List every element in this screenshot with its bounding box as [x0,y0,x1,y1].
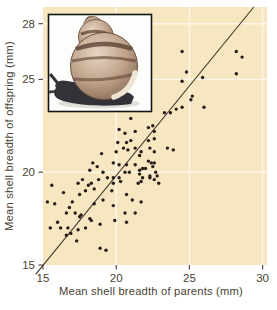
data-point [128,171,131,174]
data-point [201,76,204,79]
data-point [235,50,238,53]
data-point [49,226,52,229]
data-point [180,106,183,109]
data-point [125,163,128,166]
data-point [134,146,137,149]
data-point [74,211,77,214]
data-point [68,206,71,209]
data-point [110,189,113,192]
data-point [139,150,142,153]
data-point [112,182,115,185]
data-point [166,146,169,149]
data-point [113,219,116,222]
data-point [84,226,87,229]
scatter-plot: 1520252815202530 Mean shell breadth of o… [0,0,277,310]
data-point [131,198,134,201]
data-point [148,176,151,179]
data-point [122,146,125,149]
data-point [117,163,120,166]
data-point [56,221,59,224]
data-point [141,176,144,179]
data-point [175,107,178,110]
data-point [148,146,151,149]
data-point [180,50,183,53]
data-point [139,180,142,183]
data-point [172,148,175,151]
data-point [90,219,93,222]
data-point [126,148,129,151]
data-point [106,176,109,179]
data-point [104,249,107,252]
data-point [147,139,150,142]
data-point [169,111,172,114]
data-point [154,171,157,174]
data-point [119,180,122,183]
data-point [156,174,159,177]
data-point [79,213,82,216]
data-point [144,167,147,170]
data-point [46,200,49,203]
data-point [153,137,156,140]
snail-inset-image [49,15,152,112]
data-point [189,98,192,101]
data-point [93,202,96,205]
data-point [134,211,137,214]
data-point [98,247,101,250]
data-point [71,200,74,203]
x-tick-label: 15 [37,272,50,284]
data-point [91,161,94,164]
data-point [163,111,166,114]
data-point [123,132,126,135]
data-point [235,72,238,75]
data-point [66,226,69,229]
data-point [180,80,183,83]
data-point [151,165,154,168]
data-point [153,150,156,153]
data-point [90,182,93,185]
data-point [75,239,78,242]
data-point [129,139,132,142]
data-point [62,191,65,194]
data-point [101,198,104,201]
data-point [112,204,115,207]
data-point [141,167,144,170]
data-point [134,163,137,166]
data-point [76,182,79,185]
data-point [53,202,56,205]
data-point [150,161,153,164]
data-point [117,176,120,179]
y-tick-label: 15 [22,259,35,271]
data-point [138,169,141,172]
data-point [153,161,156,164]
data-point [240,55,243,58]
y-axis-title: Mean shell breadth of offspring (mm) [3,41,15,231]
y-tick-label: 25 [22,73,35,85]
data-point [202,106,205,109]
data-point [138,172,141,175]
data-point [134,130,137,133]
data-point [151,124,154,127]
data-point [93,187,96,190]
data-point [137,182,140,185]
data-point [96,165,99,168]
data-point [100,152,103,155]
data-point [98,223,101,226]
data-point [117,128,120,131]
data-point [153,178,156,181]
data-point [138,154,141,157]
y-tick-label: 20 [22,166,35,178]
data-point [78,193,81,196]
data-point [116,141,119,144]
data-point [65,211,68,214]
data-point [123,211,126,214]
data-point [69,232,72,235]
x-tick-label: 30 [256,272,269,284]
data-point [147,126,150,129]
data-point [147,159,150,162]
data-point [88,169,91,172]
data-point [139,200,142,203]
data-point [129,117,132,120]
data-point [59,226,62,229]
snail-heritability-figure: 1520252815202530 Mean shell breadth of o… [0,0,277,310]
data-point [65,234,68,237]
